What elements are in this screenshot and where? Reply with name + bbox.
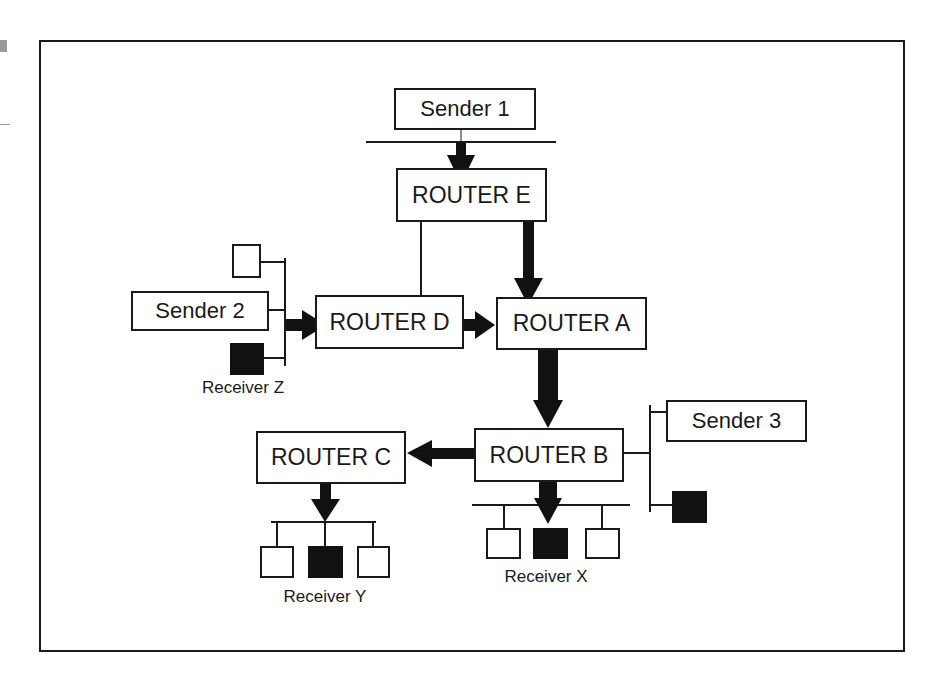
router-c-box: ROUTER C	[256, 431, 406, 484]
router-b-box: ROUTER B	[474, 428, 624, 482]
router-e-box: ROUTER E	[396, 168, 547, 222]
receiver-z-host	[230, 343, 264, 375]
arrow-b-c-shaft	[428, 448, 474, 459]
diagram-canvas: Sender 1 Sender 2 Sender 3 ROUTER E ROUT…	[0, 0, 944, 679]
sender-1-box: Sender 1	[394, 88, 536, 130]
receiver-x-host	[533, 528, 568, 559]
arrow-b-c-head	[407, 440, 432, 467]
sender-3-box: Sender 3	[666, 400, 807, 442]
receiver-z-label: Receiver Z	[202, 378, 284, 398]
host-lany-nonmember-2	[357, 546, 390, 578]
arrow-a-b-head	[533, 400, 563, 428]
receiver-y-host	[308, 546, 343, 578]
host-lany-nonmember-1	[260, 546, 294, 578]
host-lan2-nonmember	[232, 244, 261, 278]
arrow-a-b-shaft	[538, 349, 558, 404]
host-lanx-nonmember-1	[486, 528, 521, 559]
host-lanx-nonmember-2	[585, 528, 620, 559]
router-d-box: ROUTER D	[315, 295, 464, 349]
arrow-d-a-head	[475, 311, 495, 339]
arrow-c-y-shaft	[320, 483, 331, 501]
host-lan3-member	[672, 491, 707, 523]
router-a-box: ROUTER A	[496, 297, 647, 350]
sender-2-box: Sender 2	[131, 291, 269, 331]
arrow-c-y-head	[311, 499, 340, 522]
receiver-x-label: Receiver X	[504, 567, 587, 587]
arrow-b-x-head	[534, 498, 562, 524]
receiver-y-label: Receiver Y	[284, 587, 367, 607]
arrow-e-a-shaft	[523, 221, 534, 281]
arrow-s1-e-shaft	[456, 143, 466, 157]
